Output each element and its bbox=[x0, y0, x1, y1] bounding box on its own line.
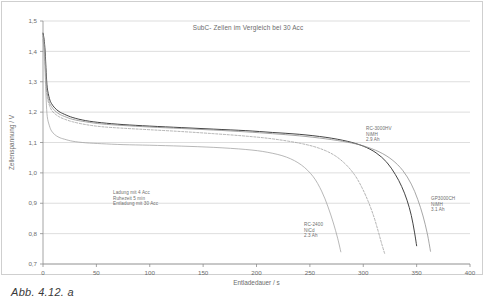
svg-text:0,8: 0,8 bbox=[28, 230, 37, 237]
svg-text:0: 0 bbox=[41, 269, 45, 276]
svg-text:Zellenspannung / V: Zellenspannung / V bbox=[8, 114, 16, 170]
annotation-rc3000hv: RC-3000HV NiMH 2.9 Ah bbox=[366, 126, 392, 143]
series-line-3 bbox=[43, 39, 341, 252]
svg-text:150: 150 bbox=[198, 269, 209, 276]
svg-text:0,9: 0,9 bbox=[28, 199, 37, 206]
tick-labels: 0,70,80,91,01,11,21,31,41,50501001502002… bbox=[28, 17, 475, 276]
svg-text:1,2: 1,2 bbox=[28, 108, 37, 115]
svg-text:0,7: 0,7 bbox=[28, 260, 37, 267]
svg-text:1,0: 1,0 bbox=[28, 169, 37, 176]
svg-text:100: 100 bbox=[145, 269, 156, 276]
svg-text:400: 400 bbox=[465, 269, 476, 276]
svg-text:1,4: 1,4 bbox=[28, 48, 37, 55]
svg-text:50: 50 bbox=[93, 269, 100, 276]
svg-text:1,3: 1,3 bbox=[28, 78, 37, 85]
grid-lines bbox=[43, 21, 470, 264]
series-line-0 bbox=[43, 33, 417, 246]
data-series bbox=[43, 33, 431, 253]
figure-container: SubC- Zellen im Vergleich bei 30 Acc 0,7… bbox=[0, 0, 496, 306]
svg-text:350: 350 bbox=[411, 269, 422, 276]
annotation-gp3000ch: GP3000CH NiMH 3.1 Ah bbox=[431, 196, 455, 213]
svg-text:1,1: 1,1 bbox=[28, 139, 37, 146]
svg-text:1,5: 1,5 bbox=[28, 17, 37, 24]
figure-caption: Abb. 4.12. a bbox=[11, 286, 74, 298]
series-line-2 bbox=[43, 36, 385, 253]
svg-text:250: 250 bbox=[305, 269, 316, 276]
svg-text:Entladedauer / s: Entladedauer / s bbox=[233, 279, 280, 286]
svg-text:200: 200 bbox=[251, 269, 262, 276]
svg-text:300: 300 bbox=[358, 269, 369, 276]
series-line-1 bbox=[43, 35, 431, 252]
chart-plot: 0,70,80,91,01,11,21,31,41,50501001502002… bbox=[0, 0, 496, 306]
annotation-conditions: Ladung mit 4 Acc Ruhezeit 5 min Entladun… bbox=[113, 190, 158, 207]
annotation-rc2400: RC-2400 NiCd 2.3 Ah bbox=[304, 222, 323, 239]
